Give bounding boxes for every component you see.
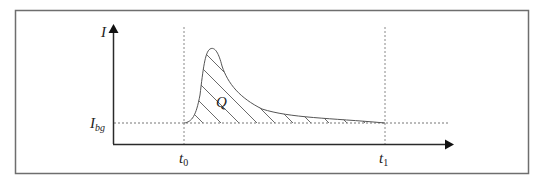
x-axis-arrow-icon bbox=[445, 140, 454, 150]
background-current-label: Ibg bbox=[89, 115, 105, 133]
charge-area-label: Q bbox=[216, 94, 227, 110]
figure-frame bbox=[16, 11, 529, 174]
y-axis-arrow-icon bbox=[109, 24, 119, 33]
end-time-label: t1 bbox=[379, 150, 388, 168]
start-time-label: t0 bbox=[179, 150, 188, 168]
charge-area-hatch bbox=[180, 38, 384, 124]
diagram-figure: I Ibg t0 t1 Q bbox=[0, 0, 544, 181]
y-axis-label: I bbox=[100, 24, 107, 40]
current-pulse-curve bbox=[184, 48, 385, 123]
